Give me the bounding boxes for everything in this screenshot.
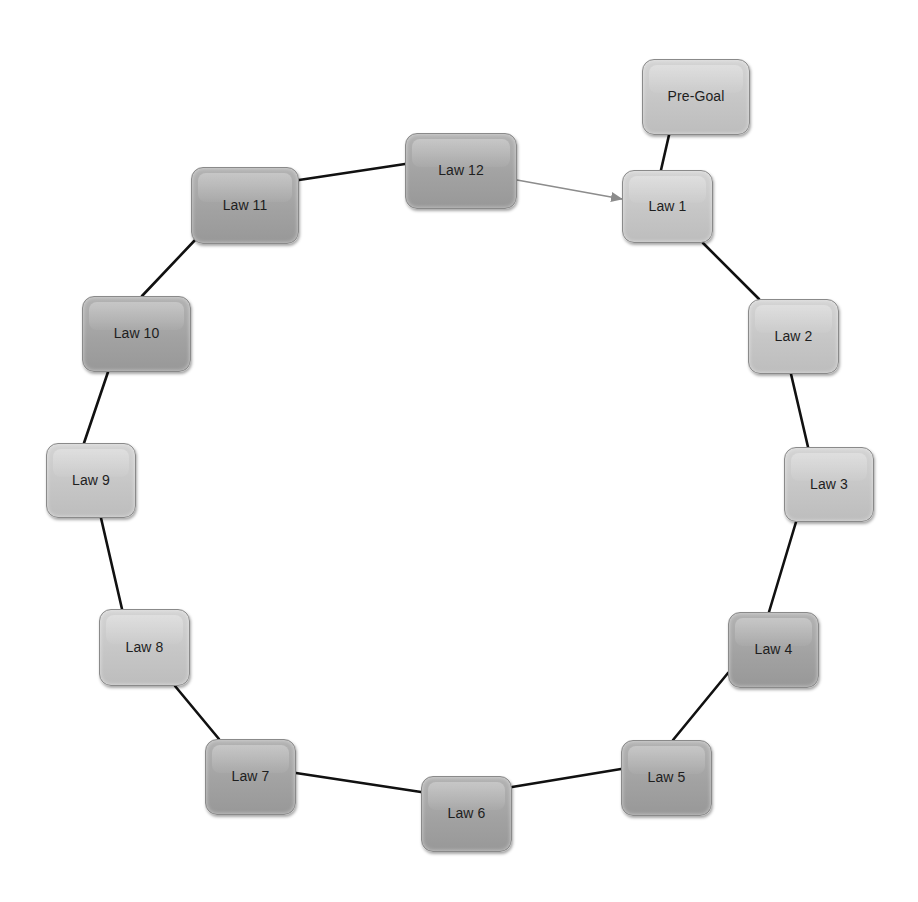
node-law-11[interactable]: Law 11 [191, 167, 299, 244]
edge-pre-goal-to-law-1 [661, 135, 669, 170]
node-label: Law 10 [114, 325, 160, 341]
node-law-2[interactable]: Law 2 [748, 299, 839, 374]
edge-law-3-to-law-4 [769, 522, 796, 612]
node-law-1[interactable]: Law 1 [622, 170, 713, 243]
edge-law-5-to-law-6 [512, 769, 621, 787]
node-law-8[interactable]: Law 8 [99, 609, 190, 686]
node-label: Law 6 [448, 805, 486, 821]
edge-law-12-to-law-1 [517, 180, 622, 199]
edge-law-7-to-law-8 [175, 686, 219, 739]
node-label: Law 9 [72, 472, 110, 488]
node-label: Law 11 [223, 197, 268, 213]
edge-law-2-to-law-3 [791, 374, 808, 447]
node-label: Law 8 [126, 639, 164, 655]
edge-law-6-to-law-7 [296, 773, 421, 792]
node-label: Law 2 [775, 328, 813, 344]
node-law-12[interactable]: Law 12 [405, 133, 517, 209]
node-law-9[interactable]: Law 9 [46, 443, 136, 518]
node-label: Law 4 [755, 641, 793, 657]
node-label: Pre-Goal [668, 88, 725, 104]
node-law-7[interactable]: Law 7 [205, 739, 296, 815]
edge-law-1-to-law-2 [703, 243, 759, 299]
node-label: Law 7 [232, 768, 270, 784]
edge-law-11-to-law-12 [299, 164, 405, 180]
node-law-10[interactable]: Law 10 [82, 296, 191, 372]
node-label: Law 5 [648, 769, 686, 785]
edge-law-8-to-law-9 [101, 518, 122, 609]
diagram-canvas: Pre-GoalLaw 1Law 2Law 3Law 4Law 5Law 6La… [0, 0, 918, 902]
node-label: Law 12 [438, 162, 484, 178]
edge-law-10-to-law-11 [142, 239, 196, 296]
edge-law-9-to-law-10 [84, 372, 108, 443]
node-law-4[interactable]: Law 4 [728, 612, 819, 688]
node-pre-goal[interactable]: Pre-Goal [642, 59, 750, 135]
node-label: Law 3 [810, 476, 848, 492]
node-law-5[interactable]: Law 5 [621, 740, 712, 816]
node-label: Law 1 [649, 198, 687, 214]
node-law-6[interactable]: Law 6 [421, 776, 512, 852]
node-law-3[interactable]: Law 3 [784, 447, 874, 522]
edge-law-4-to-law-5 [673, 673, 728, 740]
